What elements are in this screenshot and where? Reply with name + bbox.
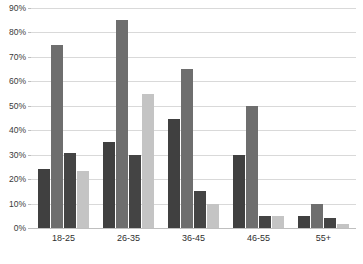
y-axis-tick-label: 30% [9,151,26,160]
y-axis-tick-label: 80% [9,28,26,37]
bar [298,216,310,228]
y-axis-tick-label: 90% [9,4,26,13]
x-axis-tick-label: 55+ [316,234,331,243]
y-axis-tick-label: 70% [9,53,26,62]
y-axis-tick-label: 10% [9,200,26,209]
y-axis-tick-label: 40% [9,126,26,135]
y-axis-tick-label: 20% [9,175,26,184]
y-axis-tick-label: 0% [14,224,26,233]
x-axis-tick-label: 36-45 [182,234,205,243]
bar-groups [31,8,356,228]
y-axis: 0%10%20%30%40%50%60%70%80%90% [0,0,31,264]
bar [324,218,336,228]
bar [337,224,349,228]
bar-group [31,8,356,228]
x-axis: 18-2526-3536-4546-5555+ [31,234,356,256]
bar [311,204,323,228]
bar-chart: 0%10%20%30%40%50%60%70%80%90% 18-2526-35… [0,0,363,264]
y-axis-tick-label: 60% [9,77,26,86]
plot-area [31,8,356,228]
x-axis-tick-label: 18-25 [52,234,75,243]
x-axis-tick-label: 26-35 [117,234,140,243]
y-axis-tick-label: 50% [9,102,26,111]
x-axis-tick-label: 46-55 [247,234,270,243]
axis-baseline [31,228,356,229]
